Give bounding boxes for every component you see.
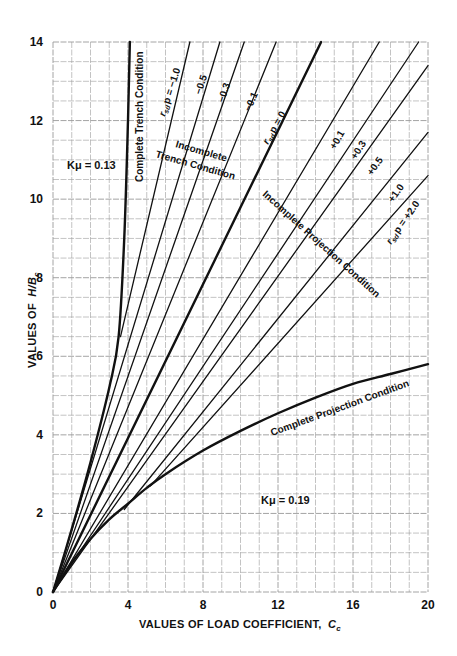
complete-trench-label: Complete Trench Condition [134, 51, 145, 182]
r-label-plus-0-1: +0.1 [327, 128, 347, 151]
y-tick-label: 10 [30, 192, 44, 206]
r-label-plus-0-3: +0.3 [348, 138, 368, 161]
x-axis-title: VALUES OF LOAD COEFFICIENT, Cc [139, 618, 341, 633]
r-label-minus-0-3: −0.3 [215, 81, 232, 104]
load-coefficient-chart: 04812162002468101214 VALUES OF LOAD COEF… [0, 0, 457, 656]
r-label-minus-1: rsdp = −1.0 [156, 66, 183, 118]
x-tick-label: 4 [125, 598, 132, 612]
r-label-plus-1-0: +1.0 [386, 181, 407, 204]
x-tick-label: 12 [271, 598, 285, 612]
y-tick-label: 0 [36, 585, 43, 599]
r-label-zero: rsdp = 0 [260, 109, 289, 147]
k-trench-label: Kμ = 0.13 [67, 159, 116, 171]
y-tick-label: 2 [36, 506, 43, 520]
incomplete-projection-label: Incomplete Projection Condition [261, 188, 383, 299]
x-tick-label: 20 [421, 598, 435, 612]
y-tick-label: 12 [30, 114, 44, 128]
r-label-plus-0-5: +0.5 [365, 154, 386, 177]
curve-r-sd-p-1-0 [124, 132, 428, 509]
r-label-plus-2-0: rsdp = +2.0 [384, 198, 423, 246]
x-tick-label: 0 [50, 598, 57, 612]
x-tick-label: 8 [200, 598, 207, 612]
x-tick-label: 16 [346, 598, 360, 612]
k-projection-label: Kμ = 0.19 [261, 494, 310, 506]
grid [53, 42, 428, 592]
r-label-minus-0-1: −0.1 [242, 90, 260, 113]
y-tick-label: 14 [30, 35, 44, 49]
y-tick-label: 4 [36, 428, 43, 442]
curve-r-sd-p-1-0 [121, 42, 190, 337]
